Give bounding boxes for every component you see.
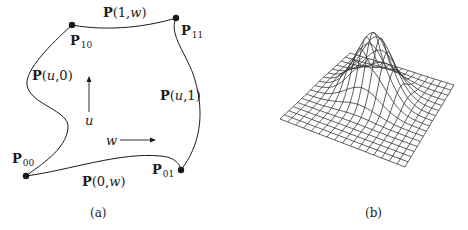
mesh-line xyxy=(337,62,445,100)
mesh-line xyxy=(328,37,439,111)
mesh-line xyxy=(293,107,414,152)
mesh-line xyxy=(280,119,405,167)
label-p00: P00 xyxy=(12,152,34,168)
caption-a: (a) xyxy=(90,207,107,219)
caption-b: (b) xyxy=(365,207,382,219)
mesh-line xyxy=(303,59,369,128)
label-p01: P01 xyxy=(152,163,174,179)
label-axis-w: w xyxy=(106,134,117,147)
mesh-line xyxy=(335,33,396,140)
mesh-line xyxy=(289,111,411,157)
figure: P(1,w) P(u,0) P(u,1) P(0,w) P00 P01 P10 … xyxy=(0,0,468,230)
mesh-line xyxy=(311,61,376,131)
mesh-line xyxy=(302,98,420,141)
label-p11: P11 xyxy=(181,24,203,40)
label-top-edge: P(1,w) xyxy=(103,6,146,19)
label-left-edge: P(u,0) xyxy=(32,69,73,82)
label-right-edge: P(u,1) xyxy=(160,89,201,102)
label-p10: P10 xyxy=(70,34,92,50)
label-bottom-edge: P(0,w) xyxy=(82,175,125,188)
label-axis-u: u xyxy=(85,114,93,127)
